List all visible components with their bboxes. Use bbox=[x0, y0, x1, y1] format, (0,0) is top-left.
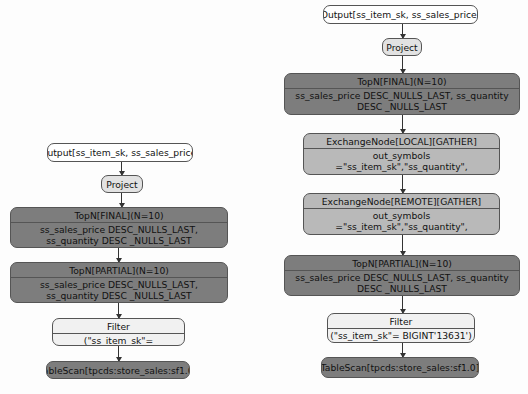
left-output-node: Output[ss_item_sk, ss_sales_price] bbox=[47, 143, 193, 162]
right-topn-final-title: TopN[FINAL](N=10) bbox=[285, 74, 519, 88]
right-edge-7 bbox=[402, 343, 403, 357]
right-exchange-remote-body: out_symbols ="ss_item_sk","ss_quantity",… bbox=[304, 208, 499, 235]
right-edge-1 bbox=[402, 24, 403, 38]
left-edge-4 bbox=[118, 303, 119, 318]
left-project-node: Project bbox=[101, 175, 143, 193]
right-filter-title: Filter bbox=[328, 314, 474, 328]
left-edge-2 bbox=[121, 193, 122, 207]
right-topn-partial-title: TopN[PARTIAL](N=10) bbox=[285, 256, 519, 270]
right-exchange-local-title: ExchangeNode[LOCAL][GATHER] bbox=[304, 134, 499, 148]
left-topn-final-body: ss_sales_price DESC_NULLS_LAST, ss_quant… bbox=[11, 222, 227, 248]
left-edge-1 bbox=[121, 162, 122, 175]
left-topn-final-title: TopN[FINAL](N=10) bbox=[11, 208, 227, 222]
right-edge-5 bbox=[402, 235, 403, 255]
right-exchange-local-body: out_symbols ="ss_item_sk","ss_quantity",… bbox=[304, 148, 499, 175]
left-topn-partial-node: TopN[PARTIAL](N=10) ss_sales_price DESC_… bbox=[10, 262, 228, 303]
left-topn-partial-body: ss_sales_price DESC_NULLS_LAST, ss_quant… bbox=[11, 277, 227, 303]
right-edge-4 bbox=[402, 175, 403, 193]
right-output-node: Output[ss_item_sk, ss_sales_price] bbox=[323, 5, 478, 24]
left-filter-title: Filter bbox=[53, 319, 184, 333]
right-edge-6 bbox=[402, 296, 403, 313]
right-project-node: Project bbox=[382, 38, 422, 56]
left-tablescan-node: TableScan[tpcds:store_sales:sf1.0] bbox=[46, 361, 190, 379]
right-filter-body: ("ss_item_sk"= BIGINT'13631') bbox=[328, 328, 474, 343]
right-topn-partial-node: TopN[PARTIAL](N=10) ss_sales_price DESC_… bbox=[284, 255, 520, 296]
left-filter-node: Filter ("ss_item_sk"= BIGINT'13631') bbox=[52, 318, 185, 346]
right-filter-node: Filter ("ss_item_sk"= BIGINT'13631') bbox=[327, 313, 475, 343]
left-topn-final-node: TopN[FINAL](N=10) ss_sales_price DESC_NU… bbox=[10, 207, 228, 248]
left-filter-body: ("ss_item_sk"= BIGINT'13631') bbox=[53, 333, 184, 346]
right-exchange-local-node: ExchangeNode[LOCAL][GATHER] out_symbols … bbox=[303, 133, 500, 175]
right-tablescan-node: TableScan[tpcds:store_sales:sf1.0] bbox=[321, 357, 479, 378]
right-topn-final-node: TopN[FINAL](N=10) ss_sales_price DESC_NU… bbox=[284, 73, 520, 115]
right-topn-partial-body: ss_sales_price DESC_NULLS_LAST, ss_quant… bbox=[285, 270, 519, 296]
right-edge-2 bbox=[402, 56, 403, 73]
right-exchange-remote-title: ExchangeNode[REMOTE][GATHER] bbox=[304, 194, 499, 208]
left-edge-5 bbox=[118, 346, 119, 361]
right-topn-final-body: ss_sales_price DESC_NULLS_LAST, ss_quant… bbox=[285, 88, 519, 114]
right-exchange-remote-node: ExchangeNode[REMOTE][GATHER] out_symbols… bbox=[303, 193, 500, 235]
right-edge-3 bbox=[402, 115, 403, 133]
left-edge-3 bbox=[118, 248, 119, 262]
left-topn-partial-title: TopN[PARTIAL](N=10) bbox=[11, 263, 227, 277]
